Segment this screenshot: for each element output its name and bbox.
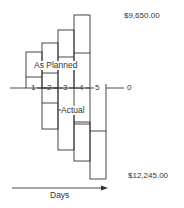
tick-4: 4 xyxy=(79,84,83,92)
days-axis-label: Days xyxy=(50,191,69,200)
tick-5: 5 xyxy=(95,84,99,92)
as-planned-label: As Planned xyxy=(34,61,77,70)
actual-label: Actual xyxy=(61,106,85,115)
cost-diagram: $9,650.00 0 As Planned Actual $12,245.00… xyxy=(0,0,184,208)
tick-3: 3 xyxy=(63,84,67,92)
zero-label: 0 xyxy=(127,84,131,92)
top-cost-label: $9,650.00 xyxy=(124,12,160,20)
bottom-cost-label: $12,245.00 xyxy=(128,172,168,180)
tick-1: 1 xyxy=(31,84,35,92)
tick-2: 2 xyxy=(47,84,51,92)
